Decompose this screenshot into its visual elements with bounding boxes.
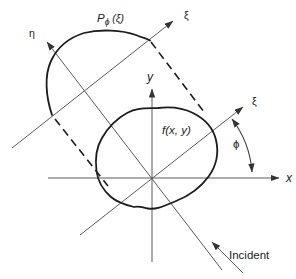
eta-axis-line — [47, 42, 222, 270]
projection-geometry-figure: Pϕ (ξ) ξ ξ η x y ϕ f(x, y) Incident — [0, 0, 296, 279]
object-function-label: f(x, y) — [162, 124, 191, 136]
x-axis-label: x — [285, 171, 293, 185]
eta-axis-label: η — [29, 27, 35, 39]
incident-label: Incident — [229, 249, 270, 261]
y-axis-label: y — [146, 70, 154, 84]
phi-angle-label: ϕ — [233, 138, 239, 150]
xi-axis-label: ξ — [252, 95, 257, 107]
diagram-canvas: Pϕ (ξ) ξ ξ η x y ϕ f(x, y) Incident — [0, 0, 296, 279]
projection-label: Pϕ (ξ) — [97, 12, 124, 27]
left-dashed-ray — [55, 119, 108, 186]
projection-profile-curve — [47, 31, 150, 115]
right-dashed-ray — [151, 42, 204, 112]
object-outline-curve — [96, 107, 217, 208]
xi-projection-axis-label: ξ — [184, 9, 189, 21]
